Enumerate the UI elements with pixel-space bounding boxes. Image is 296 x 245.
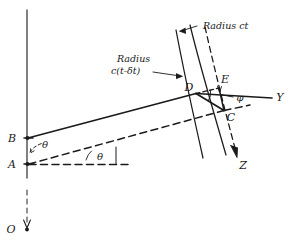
ray-d-to-y bbox=[196, 94, 272, 99]
radius-ct-leader-arrowhead bbox=[180, 28, 187, 34]
radius-ctdt-leader-line bbox=[153, 72, 180, 76]
z-arrowhead bbox=[231, 145, 238, 158]
label-theta-at-a: θ bbox=[97, 151, 103, 162]
label-radius-ctdt-line1: Radius bbox=[116, 53, 150, 64]
ray-c-extension-dashed bbox=[224, 105, 250, 111]
theta-arc-at-a bbox=[86, 151, 92, 160]
radius-ctdt-leader-arrowhead bbox=[176, 74, 183, 79]
label-point-a: A bbox=[7, 158, 16, 171]
wavefront-geometry-figure: B A O D E C Y Z θ θ φ Radius ct Radius c… bbox=[0, 0, 296, 245]
label-point-d: D bbox=[184, 81, 194, 94]
theta-arc-at-b bbox=[30, 144, 42, 153]
point-o-dot bbox=[25, 228, 29, 232]
label-radius-ct: Radius ct bbox=[202, 20, 248, 31]
label-theta-at-b: θ bbox=[42, 139, 48, 150]
label-point-e: E bbox=[220, 73, 229, 86]
label-axis-z: Z bbox=[238, 159, 247, 172]
theta-arc-b-arrowhead bbox=[31, 149, 35, 153]
z-axis-dashed-curve bbox=[205, 27, 235, 148]
label-axis-y: Y bbox=[276, 91, 285, 104]
label-point-b: B bbox=[7, 132, 16, 145]
label-radius-ctdt-line2: c(t-δt) bbox=[111, 65, 141, 76]
ray-b-to-d bbox=[28, 94, 196, 139]
label-point-c: C bbox=[227, 111, 236, 124]
figure-canvas: B A O D E C Y Z θ θ φ Radius ct Radius c… bbox=[0, 0, 296, 245]
label-point-o: O bbox=[6, 223, 15, 236]
label-phi-at-d: φ bbox=[236, 92, 243, 103]
